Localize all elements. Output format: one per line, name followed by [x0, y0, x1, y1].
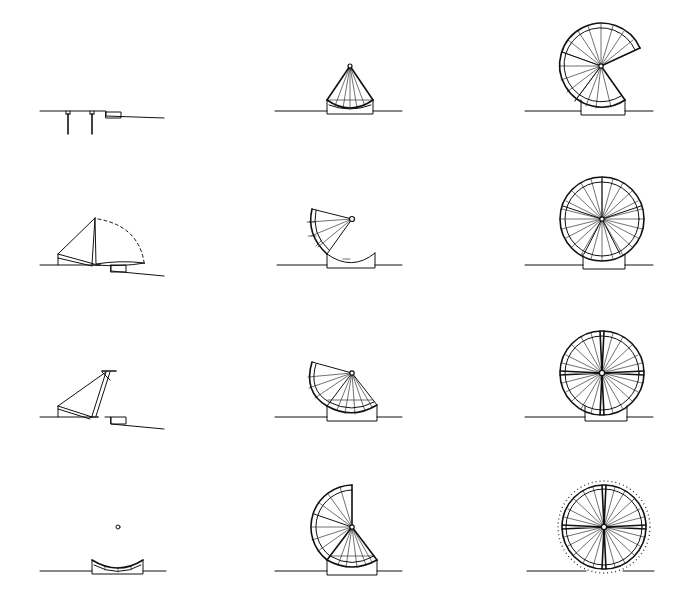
diagram-canvas	[0, 0, 686, 593]
panel-r2c2-segment-rotating	[277, 209, 402, 268]
panel-r4c3-wheel-toothed	[527, 481, 654, 573]
panel-r3c2-quarter-fan	[275, 362, 402, 421]
panel-r4c2-half-wheel	[275, 485, 402, 575]
panel-r3c1-segment-upright	[40, 371, 164, 429]
panel-r1c3-wheel-partial	[525, 23, 653, 115]
panel-r3c3-wheel-braced	[525, 331, 653, 421]
wheel-assembly-sequence-diagram: Twelve-stage line drawing of a radial-sp…	[0, 0, 686, 593]
panel-r1c2-segment-in-cradle	[275, 64, 402, 114]
panel-r2c3-wheel-complete	[525, 177, 653, 269]
panel-r4c1-cradle-placed	[40, 525, 166, 574]
panel-r2c1-segment-lifting	[40, 218, 164, 276]
panel-r1c1-foundation	[40, 111, 164, 134]
